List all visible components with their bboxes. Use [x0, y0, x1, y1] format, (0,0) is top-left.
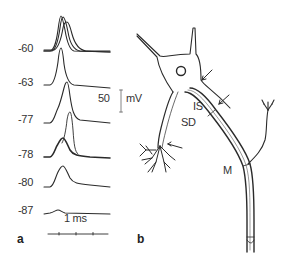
neuron-soma: [137, 28, 230, 108]
trace-77: [44, 82, 110, 123]
trace-87: [44, 210, 110, 214]
time-scale-bar: [48, 233, 108, 236]
axon: [185, 88, 254, 252]
axon-collateral: [248, 100, 274, 164]
trace-63: [44, 48, 110, 88]
soma-dendrite: [158, 92, 178, 148]
arrow-icon: [219, 95, 229, 104]
trace-78: [44, 138, 110, 158]
trace-60: [44, 16, 110, 52]
trace-80: [44, 166, 110, 187]
arrow-icon: [168, 142, 182, 148]
figure-drawing: [0, 0, 288, 260]
trace-78-spike: [62, 112, 78, 154]
arrow-icon: [202, 70, 212, 80]
